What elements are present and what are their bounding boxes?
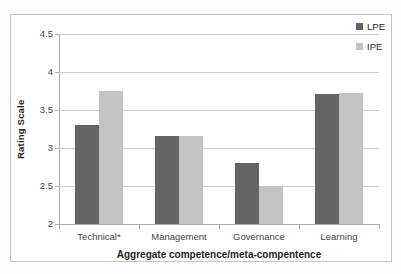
y-tick-label: 2 — [25, 219, 53, 229]
legend-item-lpe: LPE — [356, 21, 385, 32]
legend: LPE IPE — [356, 21, 385, 52]
x-tick-label-technical: Technical* — [59, 231, 139, 242]
y-tick-mark-4.5 — [55, 34, 59, 35]
gridline-4 — [59, 72, 379, 73]
y-tick-label: 4.5 — [25, 29, 53, 39]
bar-lpe-learning — [315, 94, 339, 224]
x-tick-label-learning: Learning — [299, 231, 379, 242]
y-tick-mark-4 — [55, 72, 59, 73]
chart-frame: Rating Scale 22.533.544.5 Technical* Man… — [10, 14, 392, 262]
bar-ipe-learning — [339, 93, 363, 224]
x-tick-label-management: Management — [139, 231, 219, 242]
y-tick-label: 3 — [25, 143, 53, 153]
y-tick-label: 4 — [25, 67, 53, 77]
chart-figure: Rating Scale 22.533.544.5 Technical* Man… — [0, 0, 401, 274]
x-tick-mark — [379, 225, 380, 229]
bar-lpe-governance — [235, 163, 259, 224]
x-tick-mark — [299, 225, 300, 229]
bar-ipe-technical — [99, 91, 123, 224]
y-axis-line — [59, 34, 60, 225]
ipe-swatch-icon — [356, 43, 363, 50]
bar-ipe-governance — [259, 186, 283, 224]
bar-lpe-management — [155, 136, 179, 224]
x-tick-label-governance: Governance — [219, 231, 299, 242]
y-tick-mark-2.5 — [55, 186, 59, 187]
legend-label-ipe: IPE — [367, 41, 382, 52]
gridline-4.5 — [59, 34, 379, 35]
y-tick-mark-3.5 — [55, 110, 59, 111]
legend-label-lpe: LPE — [367, 21, 385, 32]
bar-lpe-technical — [75, 125, 99, 224]
bar-ipe-management — [179, 136, 203, 224]
x-tick-mark — [59, 225, 60, 229]
y-tick-mark-3 — [55, 148, 59, 149]
y-tick-label: 2.5 — [25, 181, 53, 191]
lpe-swatch-icon — [356, 23, 363, 30]
y-tick-label: 3.5 — [25, 105, 53, 115]
x-tick-mark — [219, 225, 220, 229]
y-axis-title: Rating Scale — [13, 34, 27, 224]
x-axis-title: Aggregate competence/meta-compentence — [59, 249, 379, 260]
legend-item-ipe: IPE — [356, 41, 385, 52]
x-tick-mark — [139, 225, 140, 229]
x-axis-tick-labels: Technical* Management Governance Learnin… — [59, 231, 379, 242]
